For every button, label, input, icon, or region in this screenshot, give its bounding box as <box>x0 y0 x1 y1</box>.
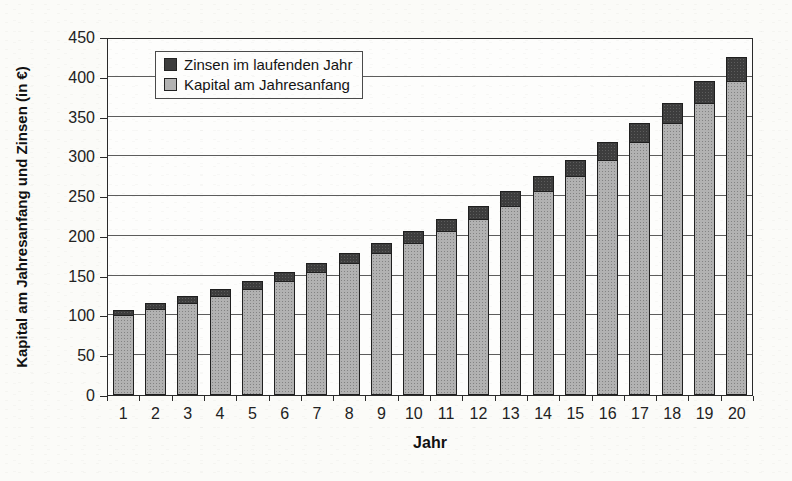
bar-interest-segment-year-14 <box>533 176 554 192</box>
x-tick-label: 13 <box>494 405 527 423</box>
x-tick-label: 5 <box>236 405 269 423</box>
y-tick-mark <box>100 316 107 317</box>
y-tick-mark <box>100 78 107 79</box>
bar-capital-segment-year-19 <box>694 103 715 395</box>
gridline <box>108 235 752 236</box>
y-tick-mark <box>100 356 107 357</box>
bar-capital-segment-year-15 <box>565 176 586 395</box>
legend: Zinsen im laufenden Jahr Kapital am Jahr… <box>155 51 363 99</box>
y-tick-mark <box>100 277 107 278</box>
x-tick-label: 9 <box>365 405 398 423</box>
bar-interest-segment-year-1 <box>113 310 134 317</box>
x-tick-label: 14 <box>527 405 560 423</box>
bar-interest-segment-year-10 <box>403 231 424 243</box>
x-tick-mark <box>559 396 560 401</box>
y-tick-mark <box>100 396 107 397</box>
x-tick-label: 19 <box>688 405 721 423</box>
gridline <box>108 354 752 355</box>
x-tick-label: 12 <box>462 405 495 423</box>
bar-capital-segment-year-12 <box>468 219 489 395</box>
bar-capital-segment-year-1 <box>113 315 134 395</box>
x-tick-label: 7 <box>300 405 333 423</box>
y-tick-label: 150 <box>53 268 95 286</box>
x-tick-mark <box>236 396 237 401</box>
plot-area: Zinsen im laufenden Jahr Kapital am Jahr… <box>107 38 753 396</box>
legend-swatch-zinsen-icon <box>164 58 177 71</box>
chart-figure: Kapital am Jahresanfang und Zinsen (in €… <box>0 0 792 481</box>
bar-capital-segment-year-8 <box>339 263 360 395</box>
legend-label-zinsen: Zinsen im laufenden Jahr <box>184 56 352 73</box>
x-tick-mark <box>527 396 528 401</box>
bar-capital-segment-year-2 <box>145 309 166 395</box>
bar-interest-segment-year-5 <box>242 281 263 290</box>
y-tick-mark <box>100 38 107 39</box>
y-tick-label: 250 <box>53 188 95 206</box>
bar-interest-segment-year-6 <box>274 272 295 282</box>
bar-capital-segment-year-7 <box>306 272 327 395</box>
bar-capital-segment-year-14 <box>533 191 554 395</box>
x-tick-mark <box>333 396 334 401</box>
y-tick-label: 450 <box>53 29 95 47</box>
bar-interest-segment-year-12 <box>468 206 489 220</box>
bar-interest-segment-year-13 <box>500 191 521 206</box>
y-tick-label: 100 <box>53 307 95 325</box>
x-tick-mark <box>721 396 722 401</box>
x-tick-mark <box>753 396 754 401</box>
bar-capital-segment-year-6 <box>274 281 295 395</box>
x-tick-label: 17 <box>623 405 656 423</box>
bar-capital-segment-year-4 <box>210 296 231 395</box>
x-tick-mark <box>107 396 108 401</box>
bar-capital-segment-year-17 <box>629 142 650 395</box>
bar-interest-segment-year-18 <box>662 103 683 124</box>
x-tick-mark <box>301 396 302 401</box>
bar-interest-segment-year-9 <box>371 243 392 255</box>
bar-capital-segment-year-3 <box>177 303 198 395</box>
y-tick-mark <box>100 118 107 119</box>
x-tick-mark <box>624 396 625 401</box>
x-tick-label: 1 <box>107 405 140 423</box>
bar-capital-segment-year-10 <box>403 243 424 396</box>
x-tick-label: 18 <box>656 405 689 423</box>
x-tick-mark <box>172 396 173 401</box>
gridline <box>108 275 752 276</box>
x-tick-mark <box>365 396 366 401</box>
gridline <box>108 155 752 156</box>
y-tick-mark <box>100 237 107 238</box>
x-tick-label: 3 <box>171 405 204 423</box>
bar-interest-segment-year-16 <box>597 142 618 161</box>
bar-interest-segment-year-15 <box>565 160 586 177</box>
bar-capital-segment-year-11 <box>436 231 457 395</box>
x-tick-label: 10 <box>397 405 430 423</box>
gridline <box>108 116 752 117</box>
x-tick-mark <box>462 396 463 401</box>
x-tick-mark <box>269 396 270 401</box>
legend-swatch-kapital-icon <box>164 78 177 91</box>
bar-interest-segment-year-17 <box>629 123 650 143</box>
bar-interest-segment-year-19 <box>694 81 715 104</box>
x-tick-mark <box>204 396 205 401</box>
y-tick-label: 200 <box>53 228 95 246</box>
y-tick-label: 0 <box>53 387 95 405</box>
x-tick-mark <box>592 396 593 401</box>
legend-label-kapital: Kapital am Jahresanfang <box>184 76 350 93</box>
y-tick-mark <box>100 197 107 198</box>
bar-interest-segment-year-2 <box>145 303 166 310</box>
x-tick-mark <box>688 396 689 401</box>
bar-interest-segment-year-20 <box>726 57 747 82</box>
x-tick-mark <box>656 396 657 401</box>
x-tick-mark <box>430 396 431 401</box>
bar-capital-segment-year-13 <box>500 206 521 396</box>
x-tick-mark <box>398 396 399 401</box>
x-tick-mark <box>139 396 140 401</box>
x-tick-mark <box>495 396 496 401</box>
bar-capital-segment-year-16 <box>597 160 618 395</box>
x-tick-label: 11 <box>430 405 463 423</box>
bar-interest-segment-year-4 <box>210 289 231 297</box>
bar-capital-segment-year-18 <box>662 123 683 395</box>
y-tick-label: 400 <box>53 69 95 87</box>
x-tick-label: 15 <box>559 405 592 423</box>
legend-item-zinsen: Zinsen im laufenden Jahr <box>164 56 352 73</box>
y-tick-label: 300 <box>53 148 95 166</box>
y-tick-mark <box>100 157 107 158</box>
legend-item-kapital: Kapital am Jahresanfang <box>164 76 352 93</box>
